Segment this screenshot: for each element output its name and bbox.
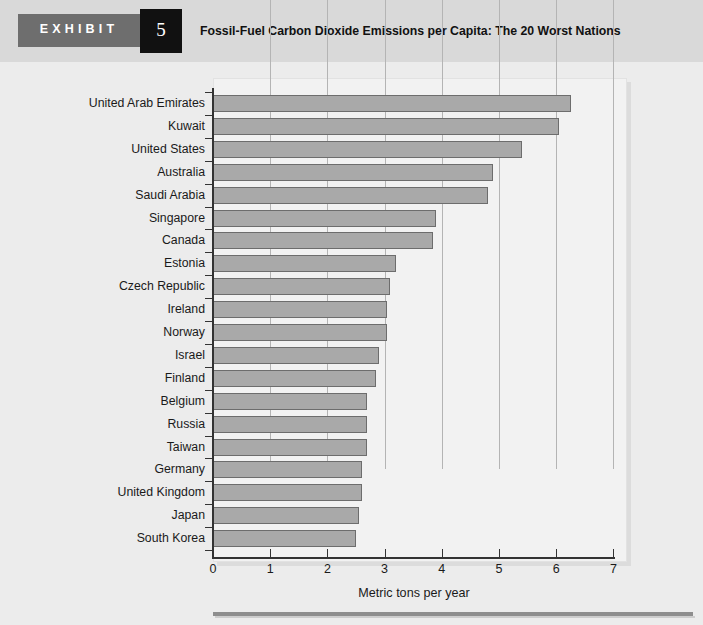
bottom-rule-shadow — [215, 616, 695, 618]
gridline — [556, 0, 557, 469]
bar — [213, 439, 367, 456]
x-tick-label: 5 — [484, 562, 514, 576]
x-tick-label: 4 — [427, 562, 457, 576]
gridline — [499, 0, 500, 469]
bar — [213, 347, 379, 364]
category-label: Taiwan — [15, 440, 205, 454]
category-label: Czech Republic — [15, 279, 205, 293]
category-label: Norway — [15, 325, 205, 339]
x-axis-title: Metric tons per year — [213, 586, 615, 600]
bar — [213, 530, 356, 547]
category-label: United Kingdom — [15, 485, 205, 499]
bar — [213, 484, 362, 501]
x-tick-label: 0 — [198, 562, 228, 576]
x-tick-label: 1 — [255, 562, 285, 576]
x-tick-label: 2 — [312, 562, 342, 576]
bar — [213, 370, 376, 387]
bottom-rule — [213, 612, 693, 616]
gridline — [613, 0, 614, 469]
bar — [213, 301, 387, 318]
bar — [213, 95, 571, 112]
bar — [213, 507, 359, 524]
category-label: Singapore — [15, 211, 205, 225]
category-label: Belgium — [15, 394, 205, 408]
y-axis-line — [212, 88, 214, 559]
category-label: Ireland — [15, 302, 205, 316]
category-label: Japan — [15, 508, 205, 522]
bar — [213, 324, 387, 341]
bar — [213, 232, 433, 249]
category-label: United Arab Emirates — [15, 96, 205, 110]
exhibit-title: Fossil-Fuel Carbon Dioxide Emissions per… — [200, 24, 621, 38]
category-label: Germany — [15, 462, 205, 476]
gridline — [442, 0, 443, 469]
category-label: Finland — [15, 371, 205, 385]
x-axis-line — [213, 557, 615, 559]
bar — [213, 278, 390, 295]
x-tick-label: 7 — [598, 562, 628, 576]
category-label: Saudi Arabia — [15, 188, 205, 202]
category-label: Australia — [15, 165, 205, 179]
category-label: South Korea — [15, 531, 205, 545]
bar — [213, 416, 367, 433]
category-label: Kuwait — [15, 119, 205, 133]
category-label: Russia — [15, 417, 205, 431]
bar — [213, 118, 559, 135]
bar — [213, 210, 436, 227]
category-label: Canada — [15, 233, 205, 247]
chart-category-labels: United Arab EmiratesKuwaitUnited StatesA… — [10, 0, 205, 625]
bar — [213, 461, 362, 478]
x-tick-label: 3 — [370, 562, 400, 576]
category-label: Israel — [15, 348, 205, 362]
bar — [213, 141, 522, 158]
category-label: Estonia — [15, 256, 205, 270]
bar — [213, 393, 367, 410]
bar — [213, 255, 396, 272]
bar — [213, 164, 493, 181]
bar — [213, 187, 488, 204]
x-tick-label: 6 — [541, 562, 571, 576]
category-label: United States — [15, 142, 205, 156]
